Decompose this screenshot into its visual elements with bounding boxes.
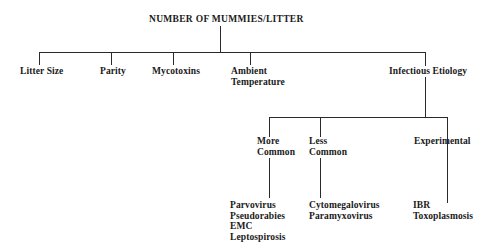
agent-paramyxovirus: Paramyxovirus — [309, 211, 380, 222]
connector-root-down — [220, 26, 221, 53]
agent-ibr: IBR — [413, 200, 473, 211]
node-less-common-line2: Common — [309, 147, 347, 158]
connector-level1-bar — [39, 52, 426, 53]
connector-parity — [111, 52, 112, 65]
agent-leptospirosis: Leptospirosis — [230, 232, 286, 243]
root-node-title: NUMBER OF MUMMIES/LITTER — [149, 14, 304, 25]
agent-emc: EMC — [230, 221, 286, 232]
node-ambient-line2: Temperature — [231, 77, 285, 88]
node-less-common: Less Common — [309, 136, 347, 157]
connector-experimental — [447, 117, 448, 203]
node-more-common: More Common — [257, 136, 295, 157]
node-parity: Parity — [100, 66, 126, 77]
agent-cytomegalovirus: Cytomegalovirus — [309, 200, 380, 211]
connector-ambient-temperature — [250, 52, 251, 65]
agents-experimental: IBR Toxoplasmosis — [413, 200, 473, 221]
node-more-common-line1: More — [257, 136, 295, 147]
connector-mycotoxins — [173, 52, 174, 65]
node-less-common-line1: Less — [309, 136, 347, 147]
agents-more-common: Parvovirus Pseudorabies EMC Leptospirosi… — [230, 200, 286, 242]
connector-less-common-upper — [320, 117, 321, 137]
node-more-common-line2: Common — [257, 147, 295, 158]
connector-more-common-upper — [269, 117, 270, 137]
connector-litter-size — [39, 52, 40, 65]
agents-less-common: Cytomegalovirus Paramyxovirus — [309, 200, 380, 221]
node-litter-size: Litter Size — [20, 66, 63, 77]
node-mycotoxins: Mycotoxins — [152, 66, 200, 77]
agent-parvovirus: Parvovirus — [230, 200, 286, 211]
connector-infectious-etiology — [425, 52, 426, 118]
node-infectious-etiology: Infectious Etiology — [388, 66, 468, 77]
connector-more-common-lower — [269, 158, 270, 198]
agent-toxoplasmosis: Toxoplasmosis — [413, 211, 473, 222]
agent-pseudorabies: Pseudorabies — [230, 211, 286, 222]
node-ambient-line1: Ambient — [231, 66, 285, 77]
connector-less-common-lower — [320, 158, 321, 198]
node-ambient-temperature: Ambient Temperature — [231, 66, 285, 87]
connector-level2-bar — [269, 117, 448, 118]
node-experimental: Experimental — [414, 136, 471, 147]
